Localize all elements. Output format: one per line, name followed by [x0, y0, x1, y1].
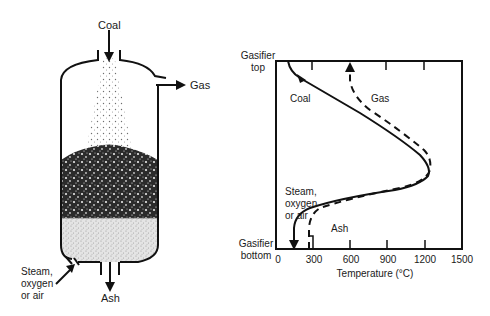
top-axis-ticks — [312, 61, 424, 70]
x-tick-1500: 1500 — [444, 254, 480, 265]
coal-temperature-curve — [288, 61, 429, 243]
gas-outlet-label: Gas — [190, 79, 210, 91]
x-axis-title: Temperature (°C) — [320, 268, 430, 279]
x-tick-300: 300 — [299, 254, 329, 265]
gasifier-bottom-label-line1: Gasifier — [234, 238, 278, 249]
x-tick-900: 900 — [373, 254, 403, 265]
temperature-profile-chart — [276, 61, 462, 250]
coal-inlet-arrow-icon — [104, 30, 114, 62]
x-tick-600: 600 — [336, 254, 366, 265]
coal-curve-label: Coal — [290, 93, 311, 104]
steam-inlet-label-line3: or air — [21, 290, 44, 301]
ash-outlet-arrow-icon — [105, 262, 115, 292]
gas-temperature-curve — [309, 70, 430, 249]
ash-outlet-label: Ash — [101, 292, 120, 304]
steam-inlet-arrow-icon — [56, 264, 75, 284]
gas-curve-label: Gas — [371, 93, 389, 104]
x-tick-1200: 1200 — [407, 254, 443, 265]
gasifier-top-label-line1: Gasifier — [236, 50, 280, 61]
gas-direction-arrow-icon — [345, 62, 355, 72]
x-tick-0: 0 — [270, 254, 286, 265]
gas-outlet-arrow-icon — [158, 80, 186, 90]
falling-coal-particles — [86, 55, 132, 150]
steam-inlet-label-line2: oxygen — [21, 278, 53, 289]
coal-inlet-label: Coal — [98, 19, 121, 31]
steam-curve-label-line1: Steam, — [285, 186, 317, 197]
steam-curve-label-line2: oxygen — [285, 198, 317, 209]
coal-bed — [61, 145, 158, 219]
steam-inlet-label-line1: Steam, — [21, 266, 53, 277]
bottom-axis-ticks — [350, 240, 425, 249]
ash-curve-label: Ash — [331, 223, 348, 234]
gasifier-top-label-line2: top — [236, 62, 280, 73]
steam-curve-label-line3: or air — [285, 210, 308, 221]
